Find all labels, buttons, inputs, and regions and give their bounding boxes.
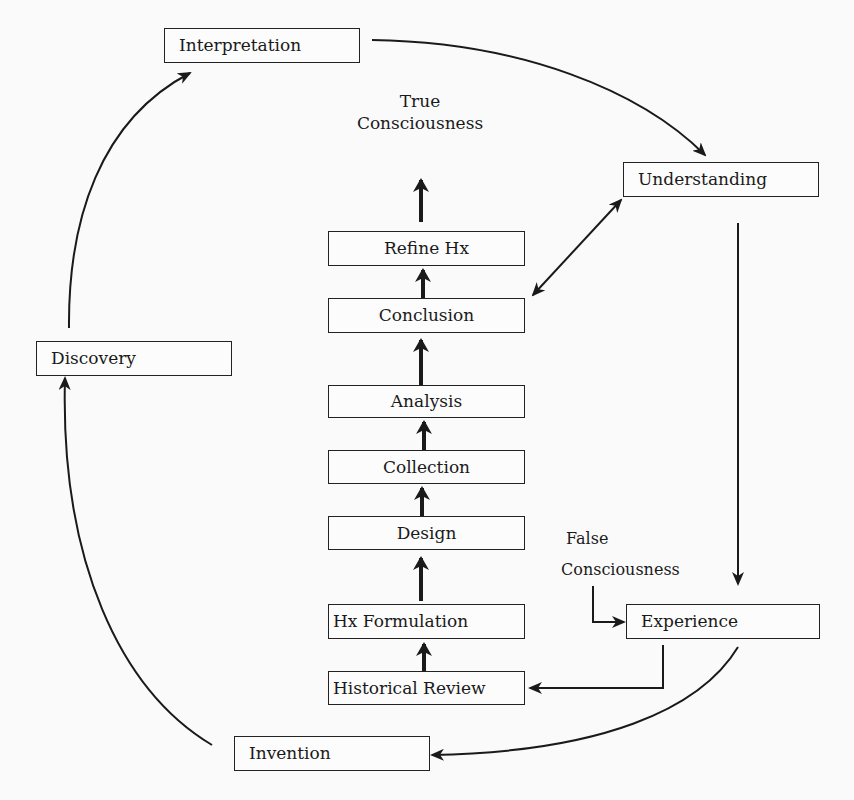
node-refine-hx-label: Refine Hx [384, 240, 469, 257]
node-interpretation: Interpretation [164, 28, 360, 63]
node-invention: Invention [234, 736, 430, 771]
node-analysis: Analysis [328, 385, 525, 418]
false-consciousness-label: False Consciousness [561, 523, 711, 585]
true-consciousness-line2: Consciousness [350, 112, 490, 134]
node-hx-formulation-label: Hx Formulation [333, 613, 468, 630]
arrow-false-consciousness-to-experience [593, 586, 624, 622]
true-consciousness-line1: True [350, 90, 490, 112]
node-design: Design [328, 516, 525, 550]
false-consciousness-line1: False [561, 523, 711, 554]
node-hx-formulation: Hx Formulation [328, 604, 525, 639]
node-collection: Collection [328, 450, 525, 484]
node-refine-hx: Refine Hx [328, 231, 525, 266]
true-consciousness-label: True Consciousness [350, 90, 490, 134]
node-understanding-label: Understanding [638, 171, 767, 188]
node-design-label: Design [397, 525, 457, 542]
node-collection-label: Collection [383, 459, 470, 476]
node-analysis-label: Analysis [391, 393, 462, 410]
false-consciousness-line2: Consciousness [561, 554, 711, 585]
node-conclusion: Conclusion [328, 298, 525, 333]
node-understanding: Understanding [623, 162, 819, 197]
node-historical-review: Historical Review [328, 671, 525, 705]
node-invention-label: Invention [249, 745, 331, 762]
arrow-understanding-conclusion-bidirectional [533, 200, 621, 295]
arrow-discovery-to-interpretation [69, 73, 190, 328]
node-experience: Experience [626, 604, 820, 639]
arrow-invention-to-discovery [65, 378, 212, 745]
node-conclusion-label: Conclusion [379, 307, 474, 324]
node-experience-label: Experience [641, 613, 738, 630]
node-interpretation-label: Interpretation [179, 37, 301, 54]
node-discovery: Discovery [36, 341, 232, 376]
arrow-experience-to-historical-review [530, 645, 663, 688]
node-discovery-label: Discovery [51, 350, 136, 367]
node-historical-review-label: Historical Review [333, 680, 486, 697]
